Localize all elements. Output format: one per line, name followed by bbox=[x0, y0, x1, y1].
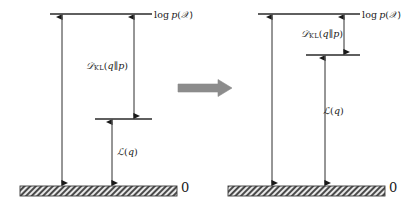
label-kl-divergence-left: 𝒟KL(q∥p) bbox=[86, 61, 128, 72]
label-kl-divergence-right: 𝒟KL(q∥p) bbox=[301, 29, 343, 40]
label-elbo-right: ℒ(q) bbox=[323, 106, 344, 116]
transition-arrow-icon bbox=[178, 80, 232, 97]
label-zero-right: 0 bbox=[389, 181, 397, 194]
variational-bound-diagram: log p(𝒳) 𝒟KL(q∥p) ℒ(q) 0 log p(𝒳) 𝒟KL(q∥… bbox=[0, 0, 414, 206]
panel-right bbox=[228, 14, 385, 196]
diagram-canvas bbox=[0, 0, 414, 206]
label-log-evidence-right: log p(𝒳) bbox=[362, 10, 401, 20]
label-log-evidence-left: log p(𝒳) bbox=[154, 10, 193, 20]
ground-bar-right bbox=[228, 186, 385, 196]
ground-bar-left bbox=[20, 186, 177, 196]
label-zero-left: 0 bbox=[181, 181, 189, 194]
panel-left bbox=[20, 14, 177, 196]
label-elbo-left: ℒ(q) bbox=[117, 147, 138, 157]
